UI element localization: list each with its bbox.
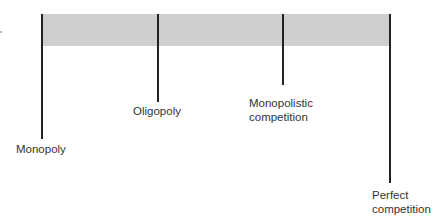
spectrum-bar	[41, 14, 390, 46]
label-line: Monopoly	[16, 142, 66, 156]
stray-mark	[0, 31, 2, 33]
label-line: Monopolistic	[249, 96, 313, 110]
label-line: competition	[249, 110, 313, 124]
marker-line-monopoly	[41, 14, 43, 139]
label-line: Perfect	[372, 188, 431, 202]
label-oligopoly: Oligopoly	[133, 104, 181, 118]
marker-line-oligopoly	[157, 14, 159, 102]
label-perfect-competition: Perfect competition	[372, 188, 431, 216]
label-monopoly: Monopoly	[16, 142, 66, 156]
marker-line-monopolistic	[282, 14, 284, 85]
label-line: competition	[372, 202, 431, 216]
marker-line-perfect	[389, 14, 391, 183]
label-monopolistic-competition: Monopolistic competition	[249, 96, 313, 124]
label-line: Oligopoly	[133, 104, 181, 118]
